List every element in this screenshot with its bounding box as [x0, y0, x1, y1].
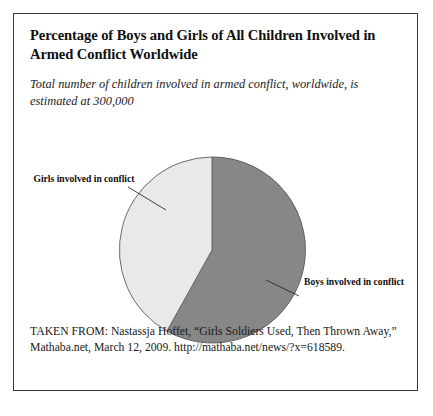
pie-label-boys: Boys involved in conflict [302, 276, 406, 288]
source-citation: TAKEN FROM: Nastassja Hoffet, “Girls Sol… [30, 324, 400, 356]
pie-label-girls: Girls involved in conflict [32, 173, 136, 185]
figure-panel: Percentage of Boys and Girls of All Chil… [13, 13, 418, 391]
